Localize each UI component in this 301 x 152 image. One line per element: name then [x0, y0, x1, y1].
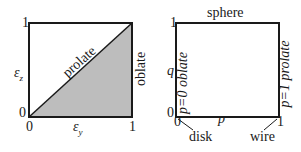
right-x-tick-left: 0 — [174, 115, 181, 129]
wire-label: wire — [250, 130, 275, 144]
right-x-tick-right: 1 — [277, 115, 284, 129]
p1-prolate-label: p=1 prolate — [278, 41, 292, 108]
right-square — [176, 23, 279, 117]
p0-oblate-label: p=0 oblate — [176, 52, 190, 114]
left-oblate-label: oblate — [134, 52, 148, 86]
right-y-tick-bottom: 0 — [167, 106, 174, 120]
left-y-tick-bottom: 0 — [19, 106, 26, 120]
sphere-label: sphere — [207, 6, 244, 20]
left-x-axis-label: εy — [73, 120, 83, 139]
q-axis-label: q — [167, 64, 174, 78]
disk-label: disk — [189, 130, 212, 144]
left-y-axis-label: εz — [14, 66, 23, 85]
p-axis-label: p — [218, 112, 225, 126]
right-y-tick-top: 1 — [170, 16, 177, 30]
left-y-tick-top: 1 — [22, 16, 29, 30]
left-x-tick-right: 1 — [129, 120, 136, 134]
left-x-tick-left: 0 — [26, 120, 33, 134]
